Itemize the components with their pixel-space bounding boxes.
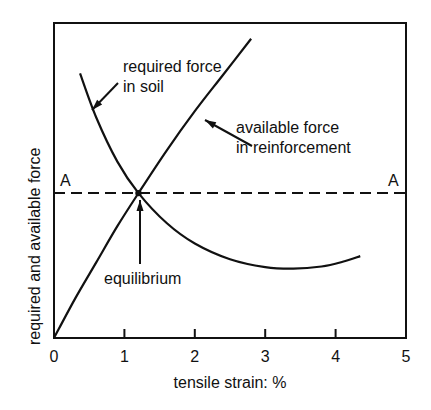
curve-required-force-in-soil <box>80 73 360 268</box>
x-tick-label: 3 <box>261 348 270 365</box>
label-required-force-line2: in soil <box>123 78 164 95</box>
curves <box>54 39 360 338</box>
label-a-left: A <box>60 172 71 189</box>
label-available-force-line2: in reinforcement <box>236 139 351 156</box>
x-tick-label: 5 <box>402 348 411 365</box>
x-tick-label: 1 <box>120 348 129 365</box>
label-required-force-line1: required force <box>123 58 222 75</box>
y-axis-label: required and available force <box>26 147 43 345</box>
equilibrium-point <box>135 190 141 196</box>
plot-frame <box>54 23 406 338</box>
label-available-force-line1: available force <box>236 119 339 136</box>
x-axis-tick-labels: 012345 <box>50 348 411 365</box>
x-axis-ticks <box>124 329 335 338</box>
label-a-right: A <box>388 172 399 189</box>
annotation-arrows <box>92 83 252 264</box>
x-axis-label: tensile strain: % <box>174 374 287 391</box>
x-tick-label: 2 <box>190 348 199 365</box>
arrow-available-force-head-icon <box>205 120 216 128</box>
x-tick-label: 0 <box>50 348 59 365</box>
tensile-strain-force-chart: 012345 required and available force tens… <box>0 0 431 410</box>
x-tick-label: 4 <box>331 348 340 365</box>
arrow-equilibrium-head-icon <box>137 200 144 211</box>
label-equilibrium: equilibrium <box>104 270 181 287</box>
